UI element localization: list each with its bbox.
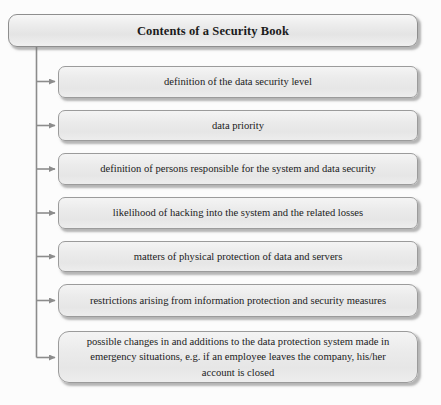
content-item-box-7: possible changes in and additions to the…	[58, 331, 418, 383]
content-item-box-2: data priority	[58, 110, 418, 141]
content-item-label-2: data priority	[202, 119, 274, 133]
content-item-label-6: restrictions arising from information pr…	[80, 294, 396, 308]
content-item-label-1: definition of the data security level	[154, 75, 322, 89]
content-item-label-5: matters of physical protection of data a…	[124, 250, 353, 264]
content-item-box-5: matters of physical protection of data a…	[58, 241, 418, 272]
content-item-box-4: likelihood of hacking into the system an…	[58, 197, 418, 229]
diagram-title-box: Contents of a Security Book	[8, 14, 418, 47]
content-item-label-7: possible changes in and additions to the…	[73, 334, 403, 380]
content-item-label-4: likelihood of hacking into the system an…	[103, 206, 373, 220]
content-item-box-6: restrictions arising from information pr…	[58, 284, 418, 317]
diagram-title-label: Contents of a Security Book	[127, 23, 299, 39]
content-item-box-3: definition of persons responsible for th…	[58, 153, 418, 185]
content-item-box-1: definition of the data security level	[58, 66, 418, 98]
content-item-label-3: definition of persons responsible for th…	[90, 162, 386, 176]
security-book-contents-diagram: Contents of a Security Book definition o…	[0, 0, 441, 405]
